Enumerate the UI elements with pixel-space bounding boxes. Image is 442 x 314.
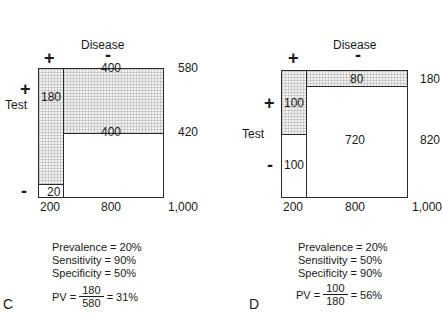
panel-label-c: C [3, 296, 13, 312]
col-total-healthy: 800 [101, 200, 121, 214]
grand-total: 1,000 [412, 200, 442, 214]
pv-prefix: PV = [296, 289, 320, 301]
false-positive-value: 400 [101, 61, 121, 75]
specificity-text: Specificity = 50% [52, 267, 142, 280]
row-total-positive: 580 [178, 61, 198, 75]
panel-label-d: D [249, 296, 259, 312]
test-positive-sign: + [20, 80, 31, 98]
col-total-healthy: 800 [345, 200, 365, 214]
test-negative-sign: - [21, 182, 27, 200]
pv-denominator: 580 [79, 297, 103, 309]
false-positive-value: 80 [350, 72, 363, 86]
pv-fraction: 100 180 [323, 282, 347, 307]
true-positive-cell [39, 69, 63, 184]
true-positive-value: 100 [284, 96, 304, 110]
false-negative-divider [281, 134, 307, 135]
disease-positive-sign: + [44, 49, 55, 67]
row-total-negative: 420 [178, 125, 198, 139]
disease-positive-sign: + [288, 49, 299, 67]
prevalence-text: Prevalence = 20% [298, 241, 388, 254]
test-axis-title: Test [5, 98, 27, 112]
pv-denominator: 180 [323, 295, 347, 307]
true-positive-value: 180 [41, 90, 61, 104]
sensitivity-text: Sensitivity = 50% [298, 254, 388, 267]
true-negative-value: 400 [101, 125, 121, 139]
pv-numerator: 180 [79, 284, 103, 297]
col-total-diseased: 200 [40, 200, 60, 214]
pv-formula: PV = 180 580 = 31% [52, 284, 138, 309]
false-positive-cell [64, 69, 163, 133]
test-axis-title: Test [242, 127, 264, 141]
sensitivity-text: Sensitivity = 90% [52, 254, 142, 267]
pv-prefix: PV = [52, 291, 76, 303]
disease-axis-title: Disease [81, 38, 124, 52]
specificity-text: Specificity = 90% [298, 267, 388, 280]
prevalence-text: Prevalence = 20% [52, 241, 142, 254]
pv-numerator: 100 [323, 282, 347, 295]
row-total-positive: 180 [420, 72, 440, 86]
pv-fraction: 180 580 [79, 284, 103, 309]
col-total-diseased: 200 [283, 200, 303, 214]
stats-block: Prevalence = 20% Sensitivity = 50% Speci… [298, 241, 388, 280]
pv-result: = 31% [107, 291, 139, 303]
test-negative-sign: - [267, 156, 273, 174]
pv-result: = 56% [351, 289, 383, 301]
false-negative-value: 100 [284, 158, 304, 172]
false-positive-divider [306, 86, 408, 87]
test-positive-sign: + [264, 94, 275, 112]
pv-formula: PV = 100 180 = 56% [296, 282, 382, 307]
stats-block: Prevalence = 20% Sensitivity = 90% Speci… [52, 241, 142, 280]
false-negative-value: 20 [47, 185, 60, 199]
true-negative-value: 720 [345, 133, 365, 147]
grand-total: 1,000 [168, 200, 198, 214]
row-total-negative: 820 [420, 133, 440, 147]
disease-negative-sign: - [355, 46, 361, 64]
